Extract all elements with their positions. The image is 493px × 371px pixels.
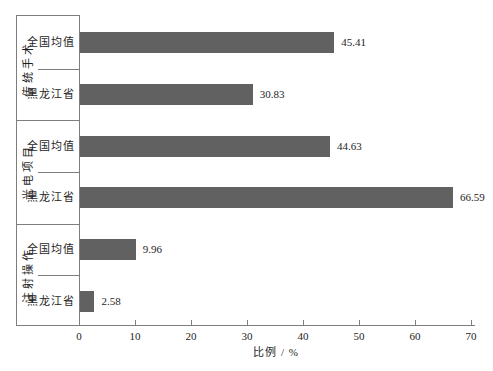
bar [80, 239, 136, 260]
bar-chart: 比例 / % 01020304050607045.41全国均值30.83黑龙江省… [0, 0, 493, 371]
group-separator [16, 224, 80, 225]
bar [80, 187, 453, 208]
x-axis-tick-label: 50 [354, 330, 365, 342]
bar-value-label: 45.41 [341, 32, 366, 53]
x-axis-tick [303, 320, 304, 325]
x-axis-tick-label: 70 [466, 330, 477, 342]
group-label: 注射操作 [19, 247, 35, 303]
bar-value-label: 44.63 [337, 136, 362, 157]
group-separator [16, 120, 80, 121]
bar-value-label: 9.96 [143, 239, 162, 260]
x-axis-tick-label: 30 [242, 330, 253, 342]
x-axis-line [16, 325, 475, 326]
x-axis-tick [359, 320, 360, 325]
within-group-separator [38, 69, 79, 70]
within-group-separator [38, 275, 79, 276]
x-axis-tick-label: 0 [76, 330, 82, 342]
bar [80, 84, 253, 105]
x-axis-title: 比例 / % [253, 343, 299, 359]
x-axis-tick [415, 320, 416, 325]
x-axis-tick-label: 20 [186, 330, 197, 342]
bar [80, 136, 330, 157]
bar [80, 291, 94, 312]
bar-value-label: 66.59 [460, 187, 485, 208]
x-axis-tick-label: 60 [410, 330, 421, 342]
bar-value-label: 2.58 [101, 291, 120, 312]
x-axis-tick [191, 320, 192, 325]
x-axis-tick-label: 40 [298, 330, 309, 342]
bar [80, 32, 334, 53]
label-column-top-border [16, 15, 80, 16]
x-axis-tick [135, 320, 136, 325]
within-group-separator [38, 172, 79, 173]
x-axis-tick [79, 320, 80, 325]
bar-value-label: 30.83 [260, 84, 285, 105]
y-axis-line [79, 15, 80, 326]
label-column-left-border [16, 15, 17, 326]
x-axis-tick [471, 320, 472, 325]
group-label: 传统手术 [19, 41, 35, 97]
x-axis-tick [247, 320, 248, 325]
group-label: 光电项目 [19, 144, 35, 200]
x-axis-tick-label: 10 [130, 330, 141, 342]
